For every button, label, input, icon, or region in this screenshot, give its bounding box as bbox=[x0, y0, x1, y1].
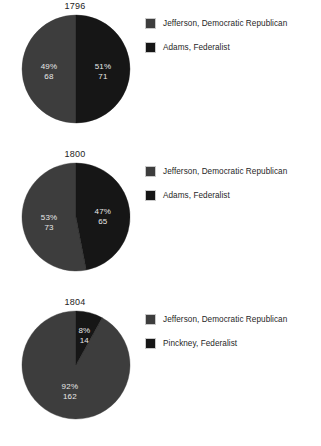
pie-svg: 53%7347%65 bbox=[21, 162, 131, 272]
legend-item[interactable]: Jefferson, Democratic Republican bbox=[145, 164, 321, 178]
chart-legend: Jefferson, Democratic RepublicanAdams, F… bbox=[145, 16, 321, 64]
pie-graphic: 49%6851%71 bbox=[21, 14, 131, 124]
legend-label: Adams, Federalist bbox=[163, 191, 230, 200]
legend-item[interactable]: Adams, Federalist bbox=[145, 188, 321, 202]
slice-percent-label: 92% bbox=[62, 382, 79, 391]
legend-label: Pinckney, Federalist bbox=[163, 339, 237, 348]
slice-value-label: 65 bbox=[98, 217, 108, 226]
slice-value-label: 71 bbox=[98, 72, 108, 81]
slice-percent-label: 51% bbox=[95, 62, 112, 71]
legend-color-swatch bbox=[145, 166, 156, 177]
chart-legend: Jefferson, Democratic RepublicanAdams, F… bbox=[145, 164, 321, 212]
slice-value-label: 14 bbox=[80, 336, 90, 345]
slice-percent-label: 53% bbox=[41, 213, 58, 222]
legend-item[interactable]: Jefferson, Democratic Republican bbox=[145, 16, 321, 30]
legend-color-swatch bbox=[145, 18, 156, 29]
legend-item[interactable]: Pinckney, Federalist bbox=[145, 336, 321, 350]
slice-percent-label: 8% bbox=[78, 326, 90, 335]
legend-color-swatch bbox=[145, 190, 156, 201]
pie-graphic: 53%7347%65 bbox=[21, 162, 131, 272]
slice-percent-label: 49% bbox=[41, 62, 58, 71]
chart-title: 1804 bbox=[0, 296, 150, 308]
pie-chart-1796: 1796 49%6851%71 Jefferson, Democratic Re… bbox=[0, 0, 321, 148]
pie-svg: 92%1628%14 bbox=[21, 310, 131, 420]
pie-chart-1804: 1804 92%1628%14 Jefferson, Democratic Re… bbox=[0, 296, 321, 444]
pie-chart-1800: 1800 53%7347%65 Jefferson, Democratic Re… bbox=[0, 148, 321, 296]
slice-value-label: 73 bbox=[44, 223, 54, 232]
legend-label: Jefferson, Democratic Republican bbox=[163, 19, 287, 28]
chart-legend: Jefferson, Democratic RepublicanPinckney… bbox=[145, 312, 321, 360]
legend-label: Jefferson, Democratic Republican bbox=[163, 167, 287, 176]
pie-graphic: 92%1628%14 bbox=[21, 310, 131, 420]
legend-item[interactable]: Jefferson, Democratic Republican bbox=[145, 312, 321, 326]
legend-label: Jefferson, Democratic Republican bbox=[163, 315, 287, 324]
legend-item[interactable]: Adams, Federalist bbox=[145, 40, 321, 54]
legend-color-swatch bbox=[145, 338, 156, 349]
legend-color-swatch bbox=[145, 314, 156, 325]
legend-color-swatch bbox=[145, 42, 156, 53]
chart-title: 1800 bbox=[0, 148, 150, 160]
slice-value-label: 162 bbox=[63, 392, 77, 401]
legend-label: Adams, Federalist bbox=[163, 43, 230, 52]
slice-percent-label: 47% bbox=[95, 207, 112, 216]
pie-svg: 49%6851%71 bbox=[21, 14, 131, 124]
slice-value-label: 68 bbox=[44, 72, 54, 81]
chart-title: 1796 bbox=[0, 0, 150, 12]
